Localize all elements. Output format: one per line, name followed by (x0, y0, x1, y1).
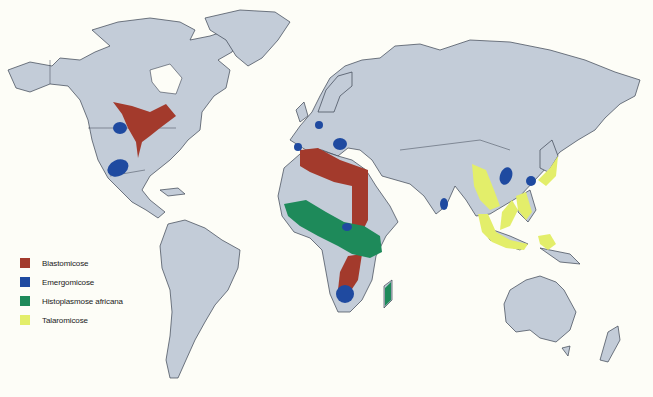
south-america-landmass (160, 220, 240, 378)
new-zealand-landmass (600, 326, 620, 362)
legend-swatch-emergomicose (20, 277, 30, 287)
world-map-svg (0, 0, 653, 397)
emergomicose-region-korea (526, 176, 536, 186)
emergomicose-region-india (440, 198, 448, 210)
legend-item-histoplasmose: Histoplasmose africana (20, 292, 123, 310)
legend-swatch-talaromicose (20, 315, 30, 325)
emergomicose-region-iberia (294, 143, 302, 151)
legend: Blastomicose Emergomicose Histoplasmose … (20, 254, 123, 330)
talaromicose-region-indonesia (538, 234, 556, 250)
emergomicose-region-central-africa (342, 223, 352, 231)
world-map: Blastomicose Emergomicose Histoplasmose … (0, 0, 653, 397)
legend-label: Histoplasmose africana (42, 297, 123, 306)
legend-swatch-blastomicose (20, 258, 30, 268)
emergomicose-region-balkans (333, 138, 347, 150)
emergomicose-region-europe-central (315, 121, 323, 129)
legend-item-emergomicose: Emergomicose (20, 273, 123, 291)
caribbean-landmass (160, 188, 185, 196)
emergomicose-region-southern-africa (336, 285, 354, 303)
legend-label: Blastomicose (42, 259, 88, 268)
australia-landmass (504, 276, 576, 342)
legend-item-talaromicose: Talaromicose (20, 311, 123, 329)
legend-swatch-histoplasmose (20, 296, 30, 306)
new-guinea-landmass (540, 248, 580, 264)
tasmania-landmass (562, 346, 570, 356)
legend-label: Talaromicose (42, 316, 88, 325)
legend-item-blastomicose: Blastomicose (20, 254, 123, 272)
legend-label: Emergomicose (42, 278, 94, 287)
emergomicose-region-na-west (113, 122, 127, 134)
